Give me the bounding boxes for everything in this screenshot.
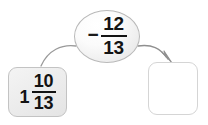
left-fraction: 10 13 [32, 72, 56, 113]
left-value-box: 1 10 13 [8, 67, 67, 117]
operation-bubble: − 12 13 [74, 10, 140, 63]
left-mixed-number: 1 10 13 [19, 72, 55, 113]
left-fraction-denominator: 13 [34, 94, 53, 112]
arrow-bubble-to-right-box-line [138, 46, 168, 59]
arrow-bubble-to-left-box [41, 46, 76, 66]
right-answer-box[interactable] [148, 62, 198, 115]
left-fraction-numerator: 10 [34, 72, 53, 90]
operation-fraction: 12 13 [101, 14, 127, 57]
operation-fraction-numerator: 12 [103, 14, 124, 33]
left-whole-number: 1 [19, 88, 29, 106]
operation-expression: − 12 13 [87, 14, 126, 57]
minus-sign-icon: − [87, 25, 98, 44]
number-operation-diagram: − 12 13 1 10 13 [0, 0, 208, 125]
right-answer-value [173, 88, 174, 89]
operation-fraction-denominator: 13 [103, 38, 124, 57]
